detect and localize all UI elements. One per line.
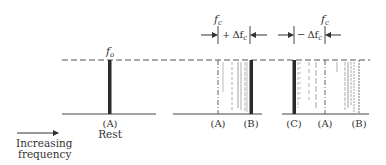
shift-label-negative: −Δfc xyxy=(297,29,322,42)
legend-line2: frequency xyxy=(18,148,71,160)
spectral-line-b-thick xyxy=(250,60,254,114)
frequency-direction-legend: Increasing frequency xyxy=(16,133,73,160)
line-label-a: (A) xyxy=(210,118,225,129)
panel-negative-shift: fc −Δfc (C) (A) (B) xyxy=(278,13,369,129)
fc-label: fc xyxy=(320,13,329,27)
spectral-line-a-thick xyxy=(108,60,112,114)
doppler-diagram: fo (A) Rest fc +Δfc (A) (B) xyxy=(0,0,386,165)
line-label-b: (B) xyxy=(351,118,366,129)
fc-label: fc xyxy=(213,13,222,27)
line-label-b: (B) xyxy=(243,118,258,129)
spectral-line-c-thick xyxy=(293,60,297,114)
panel-rest: fo (A) Rest xyxy=(62,45,156,140)
f0-label: fo xyxy=(105,45,114,59)
rest-caption: Rest xyxy=(98,128,123,140)
shift-label-positive: +Δfc xyxy=(222,29,247,42)
panel-positive-shift: fc +Δfc (A) (B) xyxy=(193,13,267,129)
line-label-c: (C) xyxy=(286,118,302,129)
line-label-a: (A) xyxy=(317,118,332,129)
